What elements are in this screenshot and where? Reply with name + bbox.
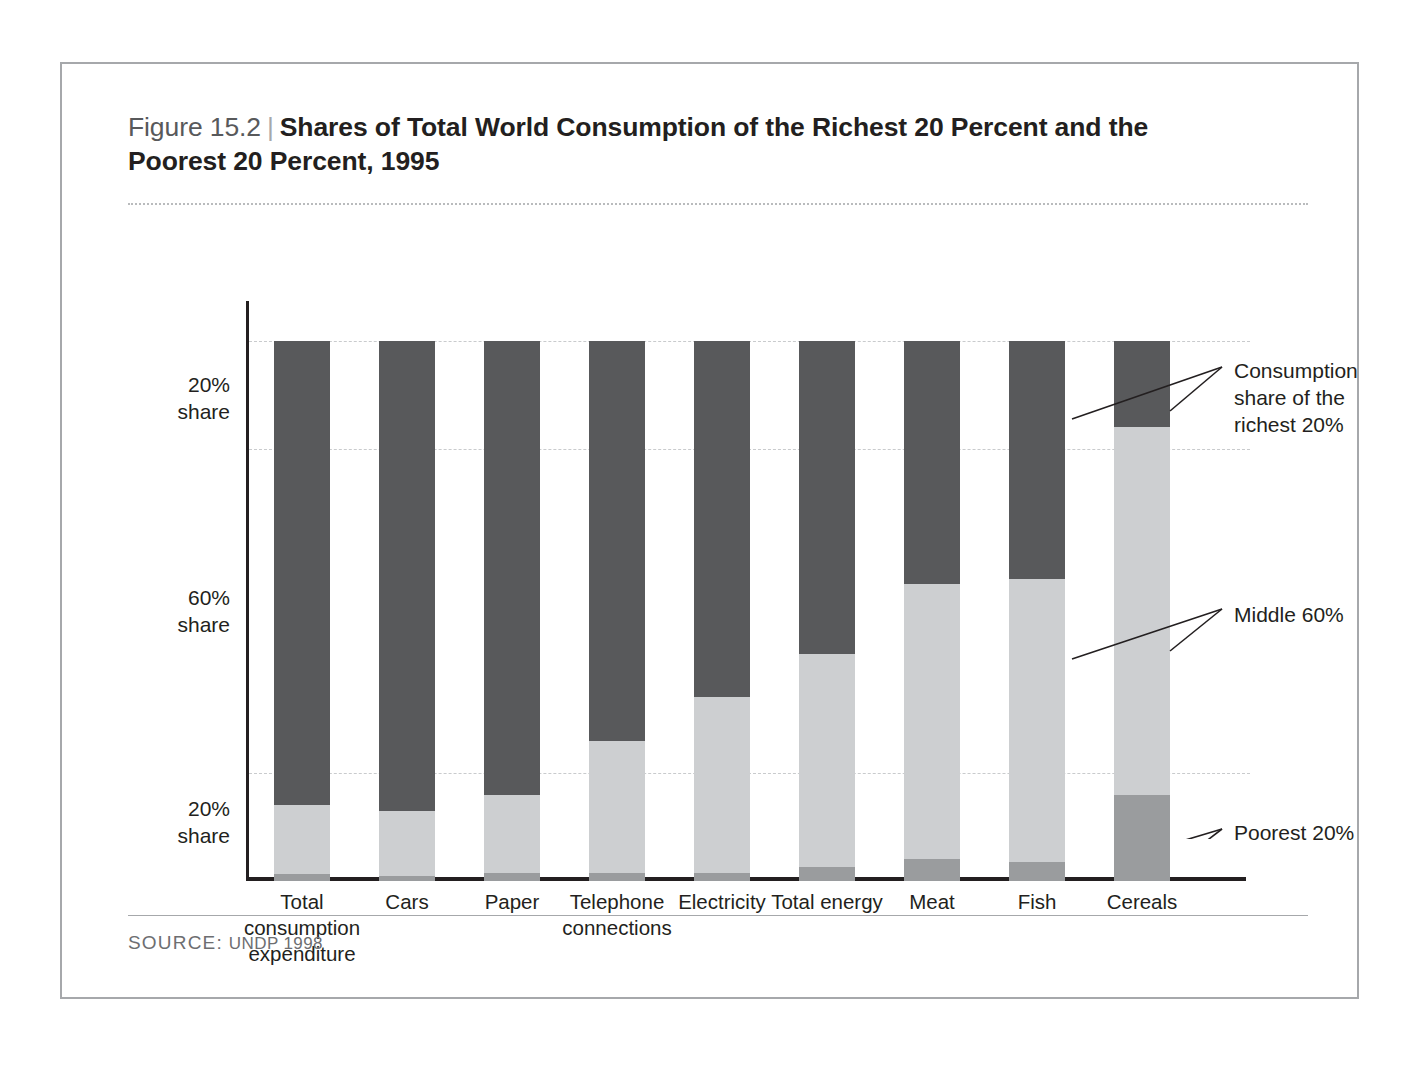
bar-group: Cars bbox=[354, 239, 459, 881]
y-label-top-value: 20% bbox=[188, 373, 230, 396]
annotation-poorest: Poorest 20% bbox=[1234, 819, 1394, 846]
y-label-mid: 60% share bbox=[120, 584, 230, 638]
bar-segment-middle bbox=[484, 795, 540, 873]
title-divider bbox=[128, 203, 1308, 205]
figure-number: Figure 15.2 bbox=[128, 112, 261, 142]
stacked-bar[interactable] bbox=[1114, 341, 1170, 881]
y-label-bottom-unit: share bbox=[177, 824, 230, 847]
figure-frame: Figure 15.2|Shares of Total World Consum… bbox=[60, 62, 1359, 999]
bar-segment-richest bbox=[379, 341, 435, 811]
bar-series-container: Total consumption expenditureCarsPaperTe… bbox=[249, 239, 1250, 881]
bar-segment-richest bbox=[904, 341, 960, 584]
bar-segment-richest bbox=[589, 341, 645, 741]
source-note: SOURCE: UNDP 1998 bbox=[128, 932, 323, 954]
figure-title-text: Shares of Total World Consumption of the… bbox=[128, 112, 1148, 176]
bar-segment-middle bbox=[694, 697, 750, 873]
stacked-bar[interactable] bbox=[484, 341, 540, 881]
chart-plot-area: 20% share 60% share 20% share Total cons… bbox=[122, 239, 1302, 839]
bar-segment-richest bbox=[274, 341, 330, 805]
bar-segment-richest bbox=[799, 341, 855, 654]
bar-segment-middle bbox=[589, 741, 645, 873]
y-label-bottom-value: 20% bbox=[188, 797, 230, 820]
stacked-bar[interactable] bbox=[694, 341, 750, 881]
bar-segment-middle bbox=[379, 811, 435, 876]
bar-group: Total energy bbox=[774, 239, 879, 881]
y-axis-labels: 20% share 60% share 20% share bbox=[122, 239, 230, 879]
bar-segment-poorest bbox=[379, 876, 435, 881]
source-divider bbox=[128, 915, 1308, 916]
y-label-top-unit: share bbox=[177, 400, 230, 423]
stacked-bar[interactable] bbox=[379, 341, 435, 881]
bar-group: Telephone connections bbox=[564, 239, 669, 881]
annotation-richest: Consumption share of the richest 20% bbox=[1234, 357, 1384, 438]
stacked-bar[interactable] bbox=[799, 341, 855, 881]
figure-title: Figure 15.2|Shares of Total World Consum… bbox=[128, 110, 1248, 178]
bar-segment-poorest bbox=[274, 874, 330, 881]
source-label: SOURCE: bbox=[128, 932, 223, 953]
bar-group: Cereals bbox=[1089, 239, 1194, 881]
x-axis-label: Cereals bbox=[1077, 889, 1207, 915]
bar-group: Meat bbox=[879, 239, 984, 881]
bar-group: Fish bbox=[984, 239, 1089, 881]
source-body: UNDP 1998 bbox=[229, 934, 323, 953]
bar-segment-richest bbox=[1009, 341, 1065, 579]
stacked-bar[interactable] bbox=[904, 341, 960, 881]
bar-segment-middle bbox=[904, 584, 960, 859]
bar-segment-poorest bbox=[904, 859, 960, 881]
bar-segment-poorest bbox=[1114, 795, 1170, 881]
bar-group: Total consumption expenditure bbox=[249, 239, 354, 881]
bar-segment-middle bbox=[274, 805, 330, 874]
bar-segment-richest bbox=[484, 341, 540, 795]
y-label-top: 20% share bbox=[120, 371, 230, 425]
bar-segment-poorest bbox=[799, 867, 855, 881]
bar-segment-middle bbox=[799, 654, 855, 867]
bar-segment-poorest bbox=[589, 873, 645, 881]
bar-group: Paper bbox=[459, 239, 564, 881]
y-label-mid-unit: share bbox=[177, 613, 230, 636]
annotation-middle: Middle 60% bbox=[1234, 601, 1394, 628]
stacked-bar[interactable] bbox=[274, 341, 330, 881]
stacked-bar[interactable] bbox=[589, 341, 645, 881]
figure-title-separator: | bbox=[261, 112, 280, 142]
bar-segment-poorest bbox=[484, 873, 540, 881]
y-label-mid-value: 60% bbox=[188, 586, 230, 609]
bar-segment-poorest bbox=[694, 873, 750, 881]
bar-segment-richest bbox=[694, 341, 750, 697]
bar-segment-richest bbox=[1114, 341, 1170, 427]
bar-segment-middle bbox=[1114, 427, 1170, 794]
bar-segment-middle bbox=[1009, 579, 1065, 863]
stacked-bar[interactable] bbox=[1009, 341, 1065, 881]
bar-group: Electricity bbox=[669, 239, 774, 881]
y-label-bottom: 20% share bbox=[120, 795, 230, 849]
bar-segment-poorest bbox=[1009, 862, 1065, 881]
